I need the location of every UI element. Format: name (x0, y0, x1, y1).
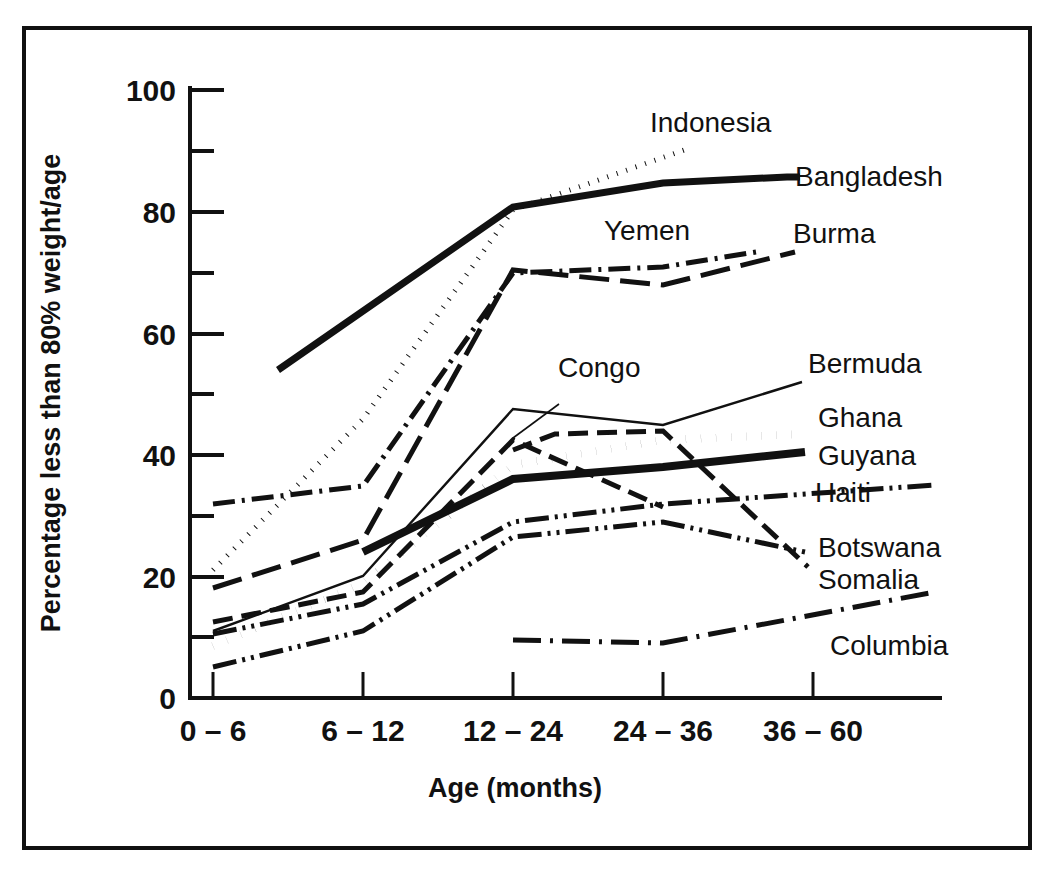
x-tick-label-4: 24 – 36 (613, 714, 713, 747)
series-label-burma: Burma (793, 218, 876, 249)
series-label-bermuda: Bermuda (808, 348, 922, 379)
y-tick-label-40: 40 (143, 439, 176, 472)
series-label-yemen: Yemen (604, 215, 690, 246)
y-tick-label-80: 80 (143, 196, 176, 229)
y-tick-label-100: 100 (126, 74, 176, 107)
series-label-guyana: Guyana (818, 440, 916, 471)
series-label-ghana: Ghana (818, 402, 902, 433)
chart-figure: 100 80 60 40 20 0 0 – 6 6 – 12 12 – 24 2… (0, 0, 1050, 876)
series-label-bangladesh: Bangladesh (795, 161, 943, 192)
x-tick-label-3: 12 – 24 (463, 714, 563, 747)
y-tick-label-20: 20 (143, 561, 176, 594)
series-label-columbia: Columbia (830, 630, 949, 661)
series-label-congo: Congo (558, 352, 641, 383)
y-axis-title: Percentage less than 80% weight/age (36, 154, 66, 633)
y-tick-label-60: 60 (143, 318, 176, 351)
x-tick-label-2: 6 – 12 (321, 714, 404, 747)
series-label-botswana: Botswana (818, 532, 941, 563)
x-tick-label-1: 0 – 6 (180, 714, 247, 747)
series-label-somalia: Somalia (818, 564, 920, 595)
series-label-haiti: Haiti (815, 477, 871, 508)
series-label-indonesia: Indonesia (650, 107, 772, 138)
x-tick-label-5: 36 – 60 (763, 714, 863, 747)
x-axis-title: Age (months) (428, 773, 602, 803)
y-tick-label-0: 0 (159, 682, 176, 715)
